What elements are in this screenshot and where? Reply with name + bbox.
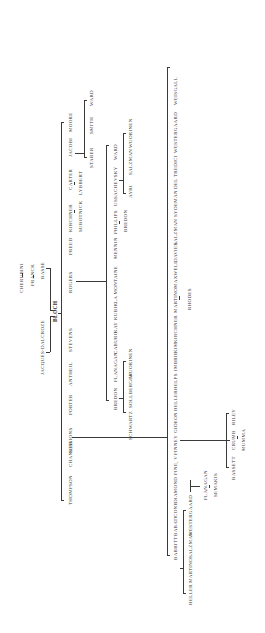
node-davies: DAVIES [173, 243, 178, 263]
edge [84, 157, 87, 158]
tick [61, 122, 64, 123]
node-subotnick: SUBOTNICK [78, 201, 83, 232]
tick [167, 67, 170, 68]
edge [237, 436, 238, 439]
tick [106, 145, 109, 146]
node-thompson: THOMPSON [68, 475, 73, 505]
node-jacques-dalcroze: JACQUES-DALCROZE [40, 320, 45, 375]
node-westergaard-c: WESTERGAARD [188, 495, 193, 536]
node-diamond: DIAMOND [173, 477, 178, 503]
node-heller: HELLER [173, 390, 178, 411]
node-flanagan: FLANAGAN [113, 352, 118, 382]
node-sydeman: SYDEMAN [173, 190, 178, 217]
edge [123, 361, 124, 412]
node-babbitt: BABBITT [173, 537, 178, 561]
node-semakis: SEMAKIS [213, 473, 218, 497]
node-wuorinen-b: WUORINEN [128, 118, 133, 148]
edge [123, 193, 126, 194]
node-helps: HELPS [173, 373, 178, 390]
tick [61, 500, 64, 501]
edge [33, 275, 34, 278]
node-kirchner: KIRCHNER [68, 204, 73, 232]
tick [106, 400, 109, 401]
node-kim: KIM [173, 342, 178, 353]
node-ayri: AYRI [128, 185, 133, 198]
node-sessions: SESSIONS [68, 428, 73, 453]
trunk-a [61, 122, 62, 500]
edge [190, 486, 200, 487]
node-cone: CONE [173, 502, 178, 517]
edge [226, 413, 227, 467]
node-ward-a: WARD [89, 90, 94, 106]
edge [123, 412, 126, 413]
node-ussachevsky: USSACHEVSKY [113, 166, 118, 206]
edge-sessions [72, 437, 168, 438]
node-martino-c: MARTINO [188, 558, 193, 583]
edge [226, 467, 229, 468]
node-weisgall: WEISGALL [173, 77, 178, 105]
edge [22, 273, 23, 277]
node-riley: RILEY [231, 409, 236, 425]
edge [123, 133, 126, 134]
trunk-c [167, 67, 168, 556]
node-caburo: CABURO [113, 331, 118, 354]
node-phillips: PHILLIPS [113, 210, 118, 234]
node-stevens: STEVENS [68, 328, 73, 352]
edge [84, 100, 85, 157]
node-smith: SMITH [89, 117, 94, 134]
tick [167, 555, 170, 556]
node-lybbert: LYBBERT [78, 171, 83, 195]
edge [74, 182, 75, 185]
node-gideon: GIDEON [173, 412, 178, 433]
node-imbrie: IMBRIE [173, 352, 178, 371]
node-maxwell: MAXWELL [173, 260, 178, 288]
node-la-montaine: LA MONTAINE [113, 266, 118, 303]
node-schwartz: SCHWARTZ [128, 411, 133, 440]
edge [123, 133, 124, 193]
node-salzman-b: SALZMAN [128, 149, 133, 175]
node-martino: MARTINO [173, 288, 178, 313]
node-heller-c: HELLER [188, 584, 193, 605]
node-rogers: ROGERS [68, 271, 73, 293]
node-sollberger: SOLLBERGER [128, 373, 133, 408]
node-ward-b: WARD [113, 144, 118, 160]
node-porter: PORTER [68, 394, 73, 415]
edge [123, 361, 126, 362]
node-bloch: BLOCH [53, 301, 58, 322]
edge [119, 221, 120, 224]
node-kay: KAY [113, 322, 118, 333]
edge [50, 268, 51, 310]
node-freed: FREED [68, 238, 73, 255]
node-salzman-c: SALZMAN [173, 219, 178, 245]
node-bassett: BASSETT [231, 456, 236, 480]
node-flanagan-c: FLANAGAN [203, 470, 208, 500]
edge [46, 352, 50, 353]
node-kubik: KUBIK [113, 303, 118, 320]
edge [183, 510, 186, 511]
edge [183, 593, 186, 594]
node-rhodes: RHODES [187, 288, 192, 310]
edge-finney [180, 440, 230, 441]
node-westergaard: WESTERGAARD [173, 112, 178, 153]
node-starer: STARER [89, 147, 94, 168]
node-babati: BABATI [173, 516, 178, 536]
edge [226, 413, 229, 414]
node-wuorinen-b2: WUORINEN [128, 348, 133, 378]
edge [209, 485, 210, 488]
node-basse: BASSE [40, 262, 45, 279]
node-mumma: MUMMA [241, 429, 246, 451]
node-bredon: BREDON [113, 388, 118, 410]
node-jacobi: JACOBI [68, 138, 73, 157]
trunk-b [106, 145, 107, 400]
node-crumb: CRUMB [231, 430, 236, 450]
node-cherubini: CHERUBINI [19, 263, 24, 293]
node-del-tredici: DEL TREDICI [173, 155, 178, 189]
edge [190, 480, 191, 492]
node-finney: FINNEY [173, 435, 178, 455]
node-bredon-2: BREDON [123, 210, 128, 232]
node-antheil: ANTHEIL [68, 362, 73, 386]
node-kirchner-c: KIRCHNER [173, 315, 178, 343]
edge [179, 296, 180, 300]
node-fine-v: FINE, V [173, 456, 178, 475]
node-moore: MOORE [68, 112, 73, 132]
